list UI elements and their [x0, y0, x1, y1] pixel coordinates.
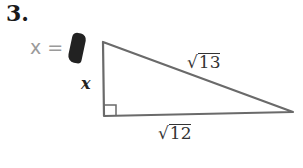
- leg-label-x: x: [81, 74, 91, 93]
- right-angle-marker: [104, 105, 116, 116]
- radical-sign: √: [187, 52, 198, 72]
- radical-sign: √: [158, 123, 169, 143]
- base-value: 12: [169, 124, 192, 141]
- triangle-diagram: [0, 0, 303, 168]
- hypotenuse-value: 13: [198, 53, 221, 70]
- hypotenuse-label: √13: [187, 52, 220, 72]
- base-label: √12: [158, 123, 191, 143]
